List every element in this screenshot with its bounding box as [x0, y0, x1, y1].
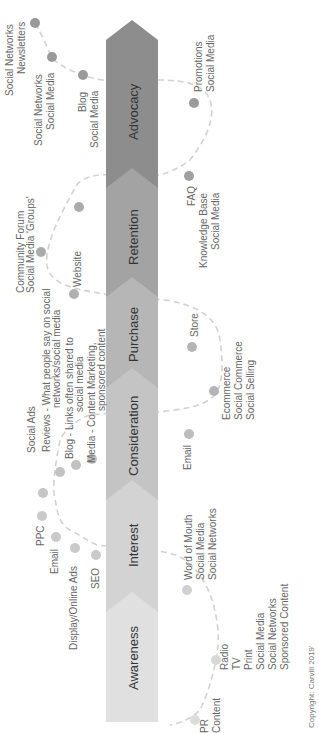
label-adv-l3a: Blog [77, 92, 88, 112]
label-ret-rb: Knowledge Base [198, 193, 209, 268]
stage-label-advocacy: Advocacy [126, 83, 141, 140]
label-adv-r1b: Social Media [205, 34, 216, 92]
label-awa-rc: Radio [219, 643, 230, 670]
dot-con-3 [55, 467, 65, 477]
dot-ret-r [184, 171, 194, 181]
label-pur-ra: Store [189, 313, 200, 337]
label-awa-re: Print [243, 649, 254, 670]
label-int-l4: SEO [90, 568, 101, 589]
label-int-ra: Word of Mouth [183, 515, 194, 580]
dot-con-4 [38, 488, 48, 498]
dot-ret-l2 [36, 247, 46, 257]
dot-int-r [182, 585, 192, 595]
label-con-l1: Social Ads [26, 406, 37, 453]
dot-adv-2 [47, 52, 57, 62]
dot-adv-r [189, 98, 199, 108]
label-awa-rf: Social Media [255, 612, 266, 670]
label-adv-l1a: Social Networks [4, 24, 15, 96]
stage-label-consideration: Consideration [126, 396, 141, 476]
stage-label-interest: Interest [126, 523, 141, 567]
dot-int-2 [51, 532, 61, 542]
dot-adv-3 [78, 70, 88, 80]
label-pur-rd: Social Selling [245, 360, 256, 420]
label-ret-lb: Social Media 'Groups' [25, 196, 36, 293]
label-awa-rh: Sponsored Content [279, 584, 290, 670]
label-pur-rc: Social Commerce [233, 341, 244, 420]
label-con-l2b: networks/social media [51, 309, 62, 408]
label-adv-l1b: Newsletters [16, 22, 27, 74]
label-awa-rg: Social Networks [267, 598, 278, 670]
label-adv-r1a: Promotions [193, 41, 204, 92]
dot-pur-r1 [187, 342, 197, 352]
dot-pur-l [69, 289, 79, 299]
dot-pur-r2 [209, 386, 219, 396]
label-int-rb: Social Media [195, 522, 206, 580]
label-awa-rd: TV [231, 657, 242, 670]
label-adv-l2a: Social Networks [33, 74, 44, 146]
label-int-l2: Email [49, 549, 60, 574]
dot-ret-l1 [74, 202, 84, 212]
label-awa-rb: Content [211, 698, 222, 733]
label-con-r: Email [182, 445, 193, 470]
stage-label-retention: Retention [126, 209, 141, 265]
label-con-l4b: sponsored content [96, 328, 107, 411]
customer-journey-diagram: Awareness Interest Consideration Purchas… [0, 0, 319, 733]
label-ret-rc: Social Media [210, 192, 221, 250]
label-adv-l2b: Social Media [45, 72, 56, 130]
label-ret-ra: FAQ [186, 186, 197, 206]
stage-label-purchase: Purchase [126, 307, 141, 362]
label-con-l3b: social media [74, 356, 85, 412]
label-pur-l: Website [72, 251, 83, 287]
dot-int-4 [91, 550, 101, 560]
dot-int-1 [37, 511, 47, 521]
dot-adv-1 [30, 18, 40, 28]
stage-label-awareness: Awareness [126, 625, 141, 690]
dot-con-r [184, 429, 194, 439]
label-awa-ra: PR [199, 719, 210, 733]
dot-int-3 [70, 543, 80, 553]
dot-con-2 [71, 460, 81, 470]
label-int-l1: PPC [35, 525, 46, 546]
label-int-rc: Social Networks [207, 508, 218, 580]
copyright-text: Copyright: Carvill 2019' [307, 645, 316, 728]
label-adv-l3b: Social Media [89, 90, 100, 148]
label-pur-rb: Ecommerce [221, 366, 232, 420]
label-int-l3: Display/Online Ads [68, 566, 79, 650]
